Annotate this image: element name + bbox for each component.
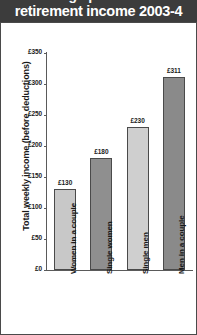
y-axis-tick-mark <box>44 270 47 271</box>
y-axis-tick: £350 <box>1 53 47 54</box>
y-axis-tick-label: £350 <box>28 48 42 55</box>
y-axis-tick-label: £150 <box>28 172 42 179</box>
y-axis-tick: £100 <box>1 208 47 209</box>
y-axis-tick: £50 <box>1 239 47 240</box>
y-axis-tick: £200 <box>1 146 47 147</box>
y-axis-tick-label: £100 <box>28 203 42 210</box>
y-axis-tick: £300 <box>1 84 47 85</box>
y-axis-tick: £150 <box>1 177 47 178</box>
chart-figure: average pensioners' retirement income 20… <box>0 0 197 335</box>
chart-plot-frame: Total weekly income (before deductions) … <box>0 22 197 335</box>
y-axis-tick-label: £250 <box>28 110 42 117</box>
y-axis-tick-label: £200 <box>28 141 42 148</box>
bar-value-label: £230 <box>120 117 156 124</box>
y-axis-tick: £0 <box>1 270 47 271</box>
bar-value-label: £180 <box>83 148 119 155</box>
chart-title-band: average pensioners' retirement income 20… <box>0 0 197 22</box>
x-axis-category-label: Single men <box>141 232 150 274</box>
x-axis-category-label: Single women <box>105 221 114 274</box>
y-axis-tick-label: £50 <box>31 234 42 241</box>
y-axis-tick-label: £0 <box>35 265 42 272</box>
x-axis-category-label: Women in a couple <box>69 203 78 274</box>
y-axis-tick: £250 <box>1 115 47 116</box>
chart-title: retirement income 2003-4 <box>0 3 197 20</box>
bar-value-label: £311 <box>156 67 192 74</box>
bar-value-label: £130 <box>47 179 83 186</box>
y-axis-tick-label: £300 <box>28 79 42 86</box>
x-axis-category-label: Men in a couple <box>177 215 186 274</box>
